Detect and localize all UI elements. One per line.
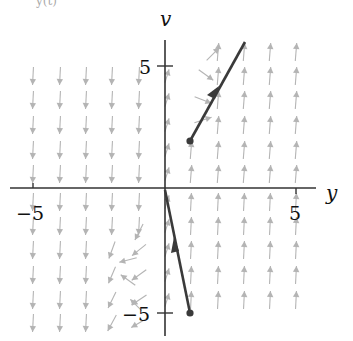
field-arrowhead-icon — [30, 303, 36, 309]
field-arrowhead-icon — [241, 241, 247, 247]
field-arrowhead-icon — [83, 303, 89, 309]
field-arrowhead-icon — [57, 103, 63, 109]
field-arrowhead-icon — [30, 278, 36, 284]
initial-point-dot — [186, 137, 193, 144]
field-arrowhead-icon — [136, 205, 142, 211]
field-arrowhead-icon — [83, 153, 89, 159]
field-arrowhead-icon — [188, 266, 194, 272]
field-arrowhead-icon — [188, 193, 194, 199]
field-arrowhead-icon — [109, 128, 115, 134]
tick-label-v-neg5: −5 — [122, 303, 150, 325]
field-arrowhead-icon — [136, 128, 142, 134]
field-arrowhead-icon — [215, 67, 221, 73]
field-arrowhead-icon — [205, 116, 212, 122]
field-arrowhead-icon — [132, 274, 139, 280]
field-arrowhead-icon — [121, 275, 128, 281]
field-arrowhead-icon — [188, 165, 194, 171]
field-arrowhead-icon — [293, 241, 299, 247]
field-arrowhead-icon — [293, 116, 299, 122]
field-arrowhead-icon — [188, 217, 194, 223]
field-arrowhead-icon — [267, 116, 273, 122]
field-arrowhead-icon — [188, 291, 194, 297]
field-arrowhead-icon — [83, 253, 89, 259]
field-arrowhead-icon — [83, 205, 89, 211]
field-arrowhead-icon — [267, 241, 273, 247]
field-arrowhead-icon — [57, 128, 63, 134]
field-arrowhead-icon — [267, 266, 273, 272]
field-arrowhead-icon — [267, 141, 273, 147]
field-arrowhead-icon — [267, 43, 273, 49]
field-arrowhead-icon — [57, 79, 63, 85]
field-arrowhead-icon — [215, 266, 221, 272]
field-arrowhead-icon — [132, 249, 139, 255]
field-arrowhead-icon — [215, 116, 221, 122]
field-arrowhead-icon — [57, 153, 63, 159]
field-arrowhead-icon — [241, 217, 247, 223]
field-arrowhead-icon — [57, 205, 63, 211]
field-arrowhead-icon — [83, 229, 89, 235]
field-arrowhead-icon — [57, 303, 63, 309]
field-arrowhead-icon — [136, 153, 142, 159]
field-arrowhead-icon — [267, 165, 273, 171]
field-arrowhead-icon — [241, 116, 247, 122]
field-arrowhead-icon — [30, 229, 36, 235]
phase-plane-diagram: −5 5 5 −5 v y — [0, 0, 353, 341]
field-arrowhead-icon — [293, 141, 299, 147]
field-arrowhead-icon — [215, 241, 221, 247]
field-arrowhead-icon — [30, 177, 36, 183]
field-arrowhead-icon — [241, 67, 247, 73]
field-arrowhead-icon — [109, 153, 115, 159]
field-arrowhead-icon — [293, 91, 299, 97]
field-arrowhead-icon — [30, 326, 36, 332]
field-arrowhead-icon — [267, 193, 273, 199]
initial-point-dot — [186, 309, 193, 316]
field-arrowhead-icon — [57, 278, 63, 284]
field-arrowhead-icon — [109, 79, 115, 85]
tick-label-x-neg5: −5 — [16, 202, 44, 224]
field-arrowhead-icon — [83, 79, 89, 85]
field-arrowhead-icon — [109, 103, 115, 109]
field-arrowhead-icon — [136, 79, 142, 85]
field-arrowhead-icon — [136, 103, 142, 109]
field-arrowhead-icon — [207, 74, 214, 80]
field-arrowhead-icon — [215, 217, 221, 223]
field-arrowhead-icon — [293, 266, 299, 272]
field-arrowhead-icon — [30, 253, 36, 259]
field-arrowhead-icon — [83, 128, 89, 134]
field-arrowhead-icon — [83, 278, 89, 284]
field-arrowhead-icon — [109, 177, 115, 183]
field-arrowhead-icon — [267, 217, 273, 223]
field-arrowhead-icon — [241, 141, 247, 147]
field-arrowhead-icon — [241, 193, 247, 199]
field-arrowhead-icon — [241, 266, 247, 272]
field-arrowhead-icon — [57, 326, 63, 332]
field-arrowhead-icon — [293, 291, 299, 297]
field-arrowhead-icon — [241, 91, 247, 97]
field-arrowhead-icon — [30, 128, 36, 134]
field-arrowhead-icon — [109, 229, 115, 235]
field-arrowhead-icon — [215, 141, 221, 147]
field-arrowhead-icon — [57, 229, 63, 235]
field-arrowhead-icon — [215, 291, 221, 297]
axis-label-y: y — [325, 181, 338, 205]
trajectory-upper — [186, 42, 245, 145]
field-arrowhead-icon — [293, 43, 299, 49]
field-arrowhead-icon — [136, 177, 142, 183]
field-arrowhead-icon — [119, 258, 126, 264]
field-arrowhead-icon — [57, 253, 63, 259]
axis-label-v: v — [160, 7, 172, 31]
field-arrowhead-icon — [83, 177, 89, 183]
field-arrowhead-icon — [241, 165, 247, 171]
field-arrowhead-icon — [215, 165, 221, 171]
field-arrowhead-icon — [30, 103, 36, 109]
tick-label-v-pos5: 5 — [139, 56, 151, 78]
field-arrowhead-icon — [241, 291, 247, 297]
field-arrowhead-icon — [267, 291, 273, 297]
field-arrowhead-icon — [109, 205, 115, 211]
field-arrowhead-icon — [57, 177, 63, 183]
field-arrowhead-icon — [293, 67, 299, 73]
field-arrowhead-icon — [188, 241, 194, 247]
field-arrowhead-icon — [83, 103, 89, 109]
field-arrowhead-icon — [30, 153, 36, 159]
field-arrowhead-icon — [293, 165, 299, 171]
